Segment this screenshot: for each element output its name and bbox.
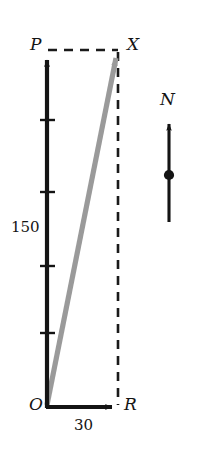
- resultant-vector-OX: [47, 58, 116, 405]
- compass-label-north: N: [160, 91, 175, 108]
- compass-centre-dot: [164, 170, 174, 180]
- horizontal-magnitude-label: 30: [74, 418, 93, 433]
- point-label-r: R: [124, 396, 137, 413]
- compass-rose: [164, 124, 174, 222]
- point-label-x: X: [127, 36, 139, 53]
- point-label-o: O: [29, 396, 43, 413]
- point-label-p: P: [30, 36, 41, 53]
- vector-diagram-figure: P X O R N 150 30: [0, 0, 206, 464]
- vertical-magnitude-label: 150: [11, 220, 40, 235]
